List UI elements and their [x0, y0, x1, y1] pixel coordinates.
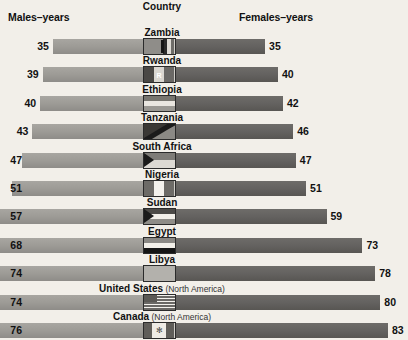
male-bar: [12, 181, 159, 196]
country-name: Canada: [113, 311, 149, 322]
chart-header: Males–years Country Females–years: [0, 0, 320, 26]
female-value: 35: [269, 39, 293, 54]
male-bar: [0, 266, 159, 281]
females-axis-label: Females–years: [239, 11, 313, 23]
country-name: Rwanda: [143, 55, 181, 66]
male-bar: [0, 323, 159, 338]
south-africa-flag: [143, 152, 176, 169]
female-value: 42: [287, 96, 311, 111]
male-value: 74: [0, 266, 22, 281]
female-bar: [159, 266, 375, 281]
bar-area: 7480: [0, 295, 320, 310]
male-bar: [0, 209, 159, 224]
female-value: 46: [297, 124, 321, 139]
country-name: Egypt: [148, 226, 176, 237]
country-name: Libya: [149, 254, 175, 265]
bar-area: 4747: [0, 153, 320, 168]
country-name: Nigeria: [145, 169, 179, 180]
female-bar: [159, 153, 296, 168]
bar-area: 3535: [0, 39, 320, 54]
bar-area: ✻7683: [0, 323, 320, 338]
country-name: Tanzania: [141, 112, 183, 123]
female-bar: [159, 96, 283, 111]
country-name: South Africa: [132, 141, 191, 152]
female-bar: [159, 181, 306, 196]
bar-area: 7478: [0, 266, 320, 281]
male-bar: [32, 124, 159, 139]
female-value: 80: [384, 295, 408, 310]
united-states-flag: [143, 294, 176, 311]
country-name: Ethiopia: [142, 84, 181, 95]
female-bar: [159, 238, 362, 253]
country-name: Zambia: [144, 27, 179, 38]
female-value: 73: [366, 238, 390, 253]
country-region-note: (North America): [163, 284, 225, 294]
female-bar: [159, 295, 380, 310]
male-bar: [22, 153, 159, 168]
male-value: 51: [0, 181, 22, 196]
egypt-flag: [143, 237, 176, 254]
male-value: 68: [0, 238, 22, 253]
male-value: 74: [0, 295, 22, 310]
female-value: 47: [300, 153, 324, 168]
libya-flag: [143, 265, 176, 282]
male-value: 57: [0, 209, 22, 224]
zambia-flag: [143, 38, 176, 55]
nigeria-flag: [143, 180, 176, 197]
male-value: 40: [14, 96, 36, 111]
female-value: 83: [392, 323, 408, 338]
female-bar: [159, 323, 388, 338]
male-value: 47: [0, 153, 22, 168]
female-value: 51: [310, 181, 334, 196]
female-value: 40: [282, 67, 306, 82]
male-bar: [40, 96, 159, 111]
rwanda-flag: R: [143, 66, 176, 83]
country-name: United States: [99, 283, 163, 294]
female-bar: [159, 124, 293, 139]
male-value: 35: [27, 39, 49, 54]
country-region-note: (North America): [149, 312, 211, 322]
female-bar: [159, 67, 278, 82]
tanzania-flag: [143, 123, 176, 140]
canada-flag: ✻: [143, 322, 176, 339]
bar-area: 6873: [0, 238, 320, 253]
male-bar: [0, 238, 159, 253]
country-name: Sudan: [147, 197, 178, 208]
male-bar: [0, 295, 159, 310]
bar-area: 4042: [0, 96, 320, 111]
female-value: 59: [331, 209, 355, 224]
bar-area: R3940: [0, 67, 320, 82]
male-value: 43: [6, 124, 28, 139]
sudan-flag: [143, 208, 176, 225]
female-bar: [159, 209, 327, 224]
bar-area: 5759: [0, 209, 320, 224]
male-value: 76: [0, 323, 22, 338]
ethiopia-flag: [143, 95, 176, 112]
males-axis-label: Males–years: [8, 11, 69, 23]
male-value: 39: [17, 67, 39, 82]
bar-area: 4346: [0, 124, 320, 139]
bar-area: 5151: [0, 181, 320, 196]
female-value: 78: [379, 266, 403, 281]
